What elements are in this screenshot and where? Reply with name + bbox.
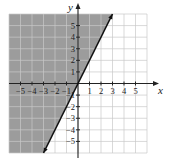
y-axis-label: y	[67, 1, 73, 13]
x-tick-label: −4	[27, 86, 37, 96]
y-tick-label: 1	[71, 67, 75, 77]
x-tick-label: 2	[99, 86, 103, 96]
x-tick-label: −3	[39, 86, 48, 96]
x-tick-label: 3	[110, 86, 114, 96]
y-tick-label: 3	[71, 44, 75, 54]
x-tick-label: 5	[133, 86, 137, 96]
x-tick-label: −2	[50, 86, 59, 96]
x-tick-label: 1	[87, 86, 91, 96]
y-tick-label: −3	[66, 113, 75, 123]
x-axis-label: x	[157, 84, 163, 96]
x-tick-label: 4	[122, 86, 127, 96]
graph: −5−4−3−2−112345−5−4−3−2−112345 x y	[0, 0, 171, 162]
x-tick-label: −5	[16, 86, 25, 96]
y-tick-label: 2	[71, 55, 75, 65]
y-tick-label: −5	[66, 136, 75, 146]
y-tick-label: −4	[66, 125, 76, 135]
y-tick-label: 5	[71, 21, 75, 31]
